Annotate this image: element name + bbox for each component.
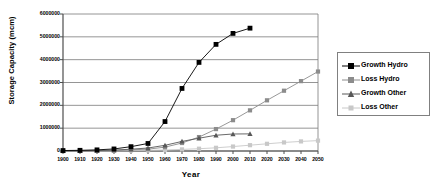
data-point-growth-hydro (95, 147, 100, 152)
data-point-loss-hydro (231, 118, 235, 122)
series-line-growth-hydro (63, 28, 250, 150)
legend-label: Growth Hydro (360, 61, 408, 68)
legend-label: Loss Hydro (360, 75, 400, 82)
data-point-loss-other (265, 142, 269, 146)
data-point-growth-hydro (78, 148, 83, 153)
data-point-loss-hydro (316, 69, 320, 73)
legend-marker-square-black (342, 58, 360, 70)
data-point-loss-other (231, 144, 235, 148)
data-point-growth-hydro (214, 42, 219, 47)
legend-item-growth-other[interactable]: Growth Other (342, 85, 429, 99)
data-point-loss-hydro (214, 127, 218, 131)
data-point-growth-hydro (146, 141, 151, 146)
data-point-loss-hydro (282, 89, 286, 93)
legend-marker-square-gray (342, 72, 360, 84)
data-point-loss-hydro (265, 98, 269, 102)
series-line-loss-hydro (63, 72, 318, 151)
legend-label: Loss Other (360, 103, 398, 110)
data-point-growth-hydro (231, 31, 236, 36)
data-point-growth-hydro (248, 26, 253, 31)
data-point-loss-other (299, 139, 303, 143)
legend-item-growth-hydro[interactable]: Growth Hydro (342, 57, 429, 71)
data-point-growth-hydro (61, 148, 66, 153)
legend-marker-square-lightgray (342, 100, 360, 112)
data-point-loss-hydro (248, 108, 252, 112)
data-point-loss-other (197, 147, 201, 151)
legend-item-loss-other[interactable]: Loss Other (342, 99, 429, 113)
data-point-loss-other (214, 146, 218, 150)
data-point-loss-other (180, 147, 184, 151)
data-point-loss-other (282, 140, 286, 144)
data-point-loss-other (248, 143, 252, 147)
data-point-growth-hydro (129, 144, 134, 149)
chart-legend: Growth Hydro Loss Hydro Growth Other Los… (337, 52, 430, 116)
data-point-loss-other (316, 139, 320, 143)
data-point-growth-hydro (163, 119, 168, 124)
legend-item-loss-hydro[interactable]: Loss Hydro (342, 71, 429, 85)
x-axis-title: Year (63, 170, 319, 179)
data-point-growth-hydro (112, 147, 117, 152)
data-point-growth-hydro (197, 60, 202, 65)
legend-label: Growth Other (360, 89, 406, 96)
chart-container: Storage Capacity (mcm) 01000000200000030… (0, 0, 437, 189)
data-point-loss-hydro (299, 79, 303, 83)
legend-marker-triangle-darkgray (342, 86, 360, 98)
data-point-growth-hydro (180, 86, 185, 91)
